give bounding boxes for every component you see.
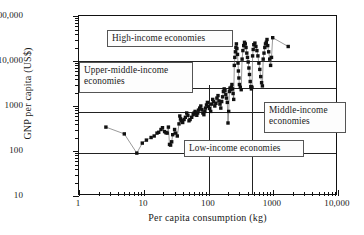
data-point-marker [174,131,177,134]
data-point-marker [266,44,269,47]
data-point-marker [260,81,263,84]
data-point-marker [204,106,207,109]
x-tick-1 [79,190,80,196]
data-point-marker [104,125,107,128]
data-point-marker [251,54,254,57]
data-point-marker [171,133,174,136]
data-point-marker [259,75,262,78]
x-tick-label-10: 10 [113,199,173,208]
y-tick-50000 [75,30,79,31]
y-tick-10 [73,196,79,197]
y-tick-300 [75,130,79,131]
y-tick-60 [75,161,79,162]
y-tick-20000 [75,48,79,49]
x-tick-3000 [304,192,305,196]
y-tick-700 [75,113,79,114]
data-point-marker [226,101,229,104]
data-point-marker [269,64,272,67]
y-tick-1000 [73,106,79,107]
y-tick-100000 [73,16,79,17]
data-point-marker [227,110,230,113]
data-point-marker [271,36,274,39]
y-tick-800 [75,110,79,111]
data-point-marker [250,86,253,89]
y-tick-100 [73,151,79,152]
data-point-marker [252,48,255,51]
x-tick-2 [99,192,100,196]
data-point-marker [196,111,199,114]
callout-high-income-economies: High-income economies [107,30,233,47]
callout-middle-income-economies: Middle-income economies [264,102,346,133]
y-tick-80000 [75,20,79,21]
data-point-marker [245,51,248,54]
data-point-marker [153,134,156,137]
data-point-marker [246,56,249,59]
x-tick-700 [263,192,264,196]
data-point-marker [267,50,270,53]
x-tick-9 [141,192,142,196]
data-point-marker [214,102,217,105]
y-tick-900 [75,108,79,109]
y-tick-30 [75,175,79,176]
y-tick-label-10: 10 [0,191,23,200]
data-point-marker [236,53,239,56]
y-tick-70000 [75,23,79,24]
data-point-marker [161,126,164,129]
data-point-marker [247,60,250,63]
y-tick-400 [75,124,79,125]
data-point-marker [263,46,266,49]
callout-middle-line1: Middle-income [269,105,328,115]
x-tick-30 [175,192,176,196]
data-point-marker [270,56,273,59]
data-point-marker [240,88,243,91]
x-tick-900 [270,192,271,196]
data-point-marker [262,57,265,60]
x-tick-7000 [328,192,329,196]
x-tick-20 [163,192,164,196]
data-point-marker [240,57,243,60]
data-point-marker [254,45,257,48]
callout-middle-line2: economies [269,116,310,126]
x-tick-500 [254,192,255,196]
data-point-marker [231,92,234,95]
x-tick-8000 [332,192,333,196]
y-tick-600 [75,116,79,117]
data-point-marker [223,89,226,92]
data-point-marker [237,76,240,79]
data-point-marker [135,151,138,154]
x-tick-600 [259,192,260,196]
data-point-marker [224,93,227,96]
y-tick-90 [75,153,79,154]
data-point-marker [199,104,202,107]
data-point-marker [233,56,236,59]
y-tick-500 [75,120,79,121]
callout-low-income-text: Low-income economies [189,143,281,153]
data-point-marker [181,121,184,124]
y-tick-40000 [75,34,79,35]
data-point-marker [173,128,176,131]
y-tick-label-100: 100 [0,146,23,155]
x-tick-60 [194,192,195,196]
x-tick-5 [124,192,125,196]
data-point-marker [232,98,235,101]
x-tick-10 [144,190,145,196]
y-tick-label-10000: 10,000 [0,56,23,65]
data-point-marker [253,41,256,44]
x-tick-7 [134,192,135,196]
x-tick-5000 [319,192,320,196]
x-tick-10000 [338,190,339,196]
x-tick-2000 [293,192,294,196]
x-tick-6 [129,192,130,196]
data-point-marker [287,45,290,48]
x-tick-label-1: 1 [48,199,108,208]
data-point-marker [208,107,211,110]
x-tick-8 [138,192,139,196]
y-tick-50 [75,165,79,166]
callout-upper-middle-line2: economies [84,76,125,86]
data-point-marker [248,73,251,76]
x-tick-9000 [335,192,336,196]
y-tick-40 [75,169,79,170]
data-point-marker [257,61,260,64]
data-point-marker [225,96,228,99]
x-tick-70 [199,192,200,196]
